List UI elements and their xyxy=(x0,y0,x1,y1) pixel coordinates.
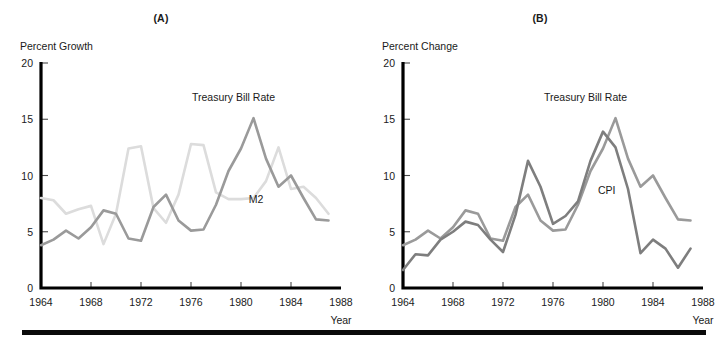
y-tick-label: 10 xyxy=(21,170,33,182)
series-label: M2 xyxy=(249,193,264,205)
x-tick-label: 1980 xyxy=(229,296,253,308)
data-series-line xyxy=(41,144,329,244)
y-tick-label: 0 xyxy=(389,282,395,294)
x-tick-label: 1976 xyxy=(179,296,203,308)
y-tick-label: 20 xyxy=(383,57,395,69)
x-tick-label: 1988 xyxy=(329,296,353,308)
panel-a-plot: 051015201964196819721976198019841988Year… xyxy=(0,0,362,330)
x-tick-label: 1984 xyxy=(279,296,303,308)
y-tick-label: 5 xyxy=(27,226,33,238)
y-tick-label: 15 xyxy=(21,113,33,125)
series-label: Treasury Bill Rate xyxy=(544,91,627,103)
y-tick-label: 20 xyxy=(21,57,33,69)
y-tick-label: 15 xyxy=(383,113,395,125)
data-series-line xyxy=(403,118,691,245)
panel-b-plot: 051015201964196819721976198019841988Year… xyxy=(362,0,724,330)
series-label: Treasury Bill Rate xyxy=(192,91,275,103)
x-axis-title: Year xyxy=(692,314,714,326)
x-tick-label: 1976 xyxy=(541,296,565,308)
y-tick-label: 10 xyxy=(383,170,395,182)
bottom-rule-divider xyxy=(22,330,706,335)
x-tick-label: 1988 xyxy=(691,296,715,308)
x-tick-label: 1972 xyxy=(491,296,515,308)
x-tick-label: 1972 xyxy=(129,296,153,308)
x-tick-label: 1964 xyxy=(29,296,53,308)
x-axis-title: Year xyxy=(330,314,352,326)
chart-panel-a: (A) Percent Growth 051015201964196819721… xyxy=(0,0,362,330)
y-tick-label: 0 xyxy=(27,282,33,294)
x-tick-label: 1984 xyxy=(641,296,665,308)
series-label: CPI xyxy=(598,184,616,196)
chart-panel-b: (B) Percent Change 051015201964196819721… xyxy=(362,0,724,330)
data-series-line xyxy=(403,132,691,270)
x-tick-label: 1968 xyxy=(441,296,465,308)
x-tick-label: 1968 xyxy=(79,296,103,308)
y-tick-label: 5 xyxy=(389,226,395,238)
x-tick-label: 1964 xyxy=(391,296,415,308)
data-series-line xyxy=(41,118,329,245)
x-tick-label: 1980 xyxy=(591,296,615,308)
